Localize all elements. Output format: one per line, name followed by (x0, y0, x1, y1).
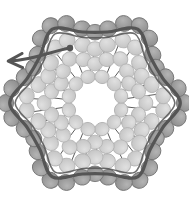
beadwork-diagram-canvas: Hexagonal beaded rosette stitch diagram … (0, 0, 189, 204)
bead-ring-1 (61, 69, 130, 138)
beadwork-diagram-svg (0, 0, 189, 204)
thread-start-dot-icon (67, 45, 73, 51)
